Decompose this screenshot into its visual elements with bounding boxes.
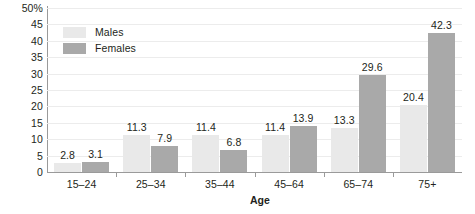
x-axis-tick-label: 75+ bbox=[393, 178, 462, 191]
legend-label: Males bbox=[95, 27, 124, 38]
legend-item: Males bbox=[63, 24, 136, 40]
x-axis-title: Age bbox=[230, 194, 290, 206]
legend-item: Females bbox=[63, 40, 136, 56]
x-axis-tick-label: 35–44 bbox=[185, 178, 254, 191]
chart-legend: MalesFemales bbox=[63, 24, 136, 56]
x-axis-line bbox=[47, 172, 462, 173]
x-axis-tick-label: 15–24 bbox=[47, 178, 116, 191]
x-axis-tick-label: 65–74 bbox=[324, 178, 393, 191]
legend-swatch-icon bbox=[63, 43, 86, 54]
x-axis-tick-label: 45–64 bbox=[255, 178, 324, 191]
x-axis-tick-label: 25–34 bbox=[116, 178, 185, 191]
legend-swatch-icon bbox=[63, 27, 86, 38]
legend-label: Females bbox=[95, 43, 136, 54]
bar-chart: 50%454035302520151050 2.83.111.37.911.46… bbox=[0, 0, 475, 214]
